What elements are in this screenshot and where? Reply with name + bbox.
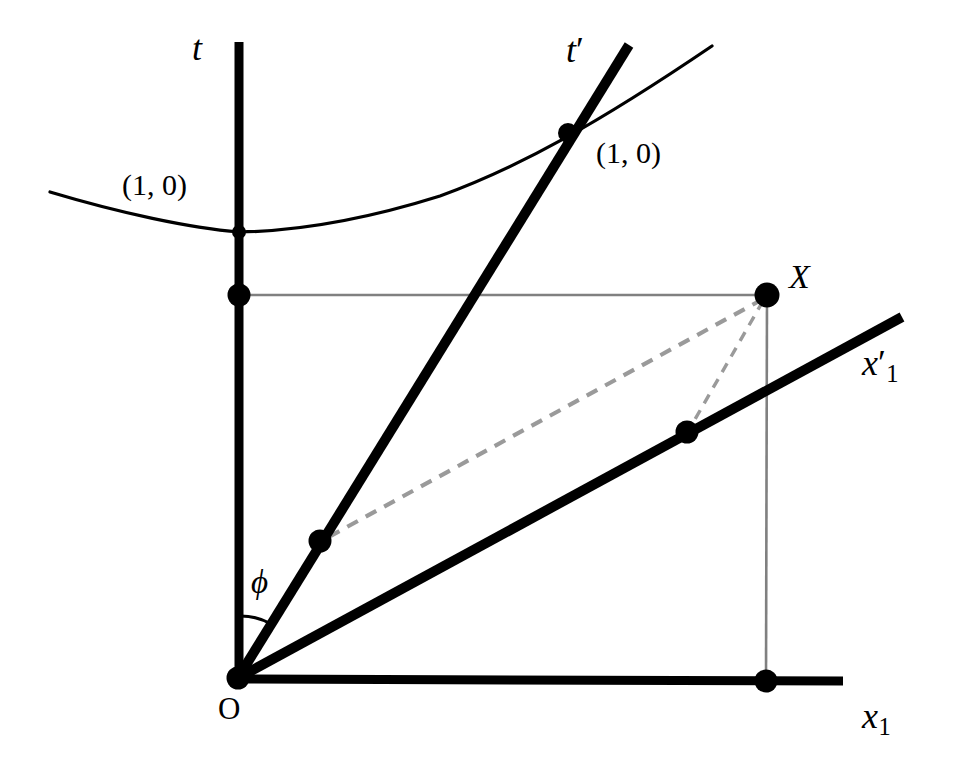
- vertical-projection-line: [766, 295, 767, 681]
- hyperbola-unit-label-right: (1, 0): [596, 138, 661, 168]
- x1-axis-label-base: x: [862, 696, 878, 736]
- point-hyperbola-vertex-on-t-axis: [232, 225, 246, 239]
- diagram-canvas: [0, 0, 957, 764]
- x1-axis-label: x1: [862, 698, 891, 739]
- t-prime-axis-label-base: t: [566, 30, 576, 70]
- point-unit-on-t-prime: [309, 530, 332, 553]
- x1-axis-label-subscript: 1: [878, 713, 890, 740]
- t-axis-label: t: [192, 30, 202, 66]
- x1-axis-line: [236, 679, 843, 681]
- point-hyperbola-on-t-prime: [558, 123, 578, 143]
- t-prime-axis-label-prime: ′: [576, 30, 584, 70]
- x1-prime-axis-label-prime: ′: [878, 343, 886, 383]
- hyperbola-unit-label-left: (1, 0): [122, 170, 187, 200]
- point-unit-on-x1-prime: [676, 421, 699, 444]
- x1-prime-axis-label: x′1: [862, 345, 899, 386]
- point-origin: [227, 667, 250, 690]
- point-t-axis-projection-of-X: [228, 284, 251, 307]
- x1-prime-axis-label-base: x: [862, 343, 878, 383]
- phi-angle-arc: [239, 616, 271, 624]
- t-prime-axis-label: t′: [566, 32, 584, 68]
- dashed-projection-to-t-prime: [325, 299, 763, 539]
- point-event-X: [755, 283, 780, 308]
- event-point-label: X: [789, 260, 810, 294]
- x1-prime-axis-line: [238, 317, 902, 678]
- point-x1-axis-projection-of-X: [755, 670, 778, 693]
- spacetime-diagram-figure: t t′ x1 x′1 X O ϕ (1, 0) (1, 0): [0, 0, 957, 764]
- x1-prime-axis-label-subscript: 1: [886, 360, 898, 387]
- origin-label: O: [218, 693, 240, 724]
- phi-angle-label: ϕ: [251, 566, 268, 599]
